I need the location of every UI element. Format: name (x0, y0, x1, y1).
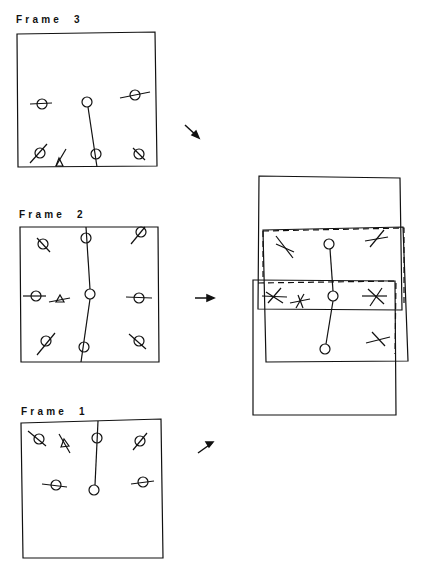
arrow-up-right-icon (198, 442, 213, 453)
frame3-panel (17, 32, 157, 167)
frame1-panel (21, 419, 163, 558)
composite-panel (253, 176, 408, 415)
arrow-right-icon (195, 295, 214, 301)
diagram-canvas (0, 0, 422, 567)
arrow-down-right-icon (185, 125, 199, 138)
frame2-panel (20, 227, 159, 362)
